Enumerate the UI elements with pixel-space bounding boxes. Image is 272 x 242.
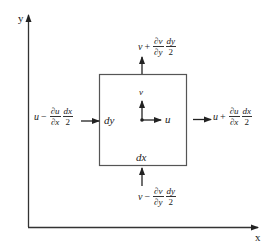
left-flux-op: − (41, 112, 47, 122)
center-u-label: u (165, 114, 171, 125)
height-label: dy (104, 115, 114, 126)
bottom-flux-partial: ∂v ∂y (153, 186, 163, 207)
right-flux-var: u (213, 112, 218, 122)
left-flux-expression: u − ∂u ∂x dx 2 (34, 106, 74, 127)
right-flux-partial: ∂u ∂x (229, 106, 240, 127)
bottom-flux-op: − (144, 192, 150, 202)
y-axis-label: y (18, 13, 24, 24)
x-axis-label: x (255, 232, 261, 242)
top-flux-half: dy 2 (166, 36, 177, 57)
right-flux-half: dx 2 (242, 106, 253, 127)
right-flux-op: + (220, 112, 226, 122)
top-flux-partial: ∂v ∂y (153, 36, 163, 57)
left-flux-var: u (34, 112, 39, 122)
top-flux-var: v (138, 42, 142, 52)
top-flux-op: + (144, 42, 150, 52)
bottom-flux-expression: v − ∂v ∂y dy 2 (138, 186, 177, 207)
right-flux-expression: u + ∂u ∂x dx 2 (213, 106, 253, 127)
left-flux-half: dx 2 (63, 106, 74, 127)
left-flux-partial: ∂u ∂x (50, 106, 61, 127)
center-v-label: v (139, 88, 143, 97)
bottom-flux-var: v (138, 192, 142, 202)
bottom-flux-half: dy 2 (166, 186, 177, 207)
top-flux-expression: v + ∂v ∂y dy 2 (138, 36, 177, 57)
width-label: dx (136, 152, 146, 163)
